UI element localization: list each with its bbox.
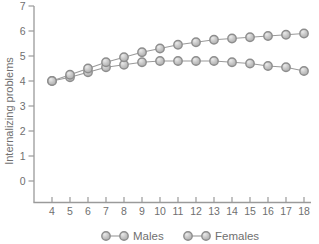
legend-label: Males xyxy=(133,230,164,242)
data-point-marker xyxy=(174,41,182,49)
data-point-marker xyxy=(246,59,254,67)
x-tick-label: 13 xyxy=(208,205,220,217)
x-tick-label: 6 xyxy=(85,205,91,217)
legend-marker xyxy=(120,232,128,240)
x-tick-label: 5 xyxy=(67,205,73,217)
chart-canvas: Internalizing problems 01234567456789101… xyxy=(0,0,319,244)
x-tick-label: 9 xyxy=(139,205,145,217)
legend-marker xyxy=(102,232,110,240)
data-point-marker xyxy=(246,33,254,41)
x-tick-label: 8 xyxy=(121,205,127,217)
data-point-marker xyxy=(84,64,92,72)
x-tick-label: 16 xyxy=(262,205,274,217)
x-tick-label: 14 xyxy=(226,205,238,217)
data-point-marker xyxy=(264,62,272,70)
plot-area: 01234567456789101112131415161718MalesFem… xyxy=(20,0,311,242)
data-point-marker xyxy=(102,58,110,66)
legend-item-males: Males xyxy=(102,230,164,242)
data-point-marker xyxy=(192,38,200,46)
y-tick-label: 7 xyxy=(20,0,26,12)
data-point-marker xyxy=(300,67,308,75)
data-point-marker xyxy=(210,36,218,44)
data-point-marker xyxy=(174,57,182,65)
data-point-marker xyxy=(264,32,272,40)
data-point-marker xyxy=(120,53,128,61)
x-tick-label: 7 xyxy=(103,205,109,217)
y-tick-label: 5 xyxy=(20,50,26,62)
data-point-marker xyxy=(156,44,164,52)
data-point-marker xyxy=(300,29,308,37)
data-point-marker xyxy=(228,34,236,42)
data-point-marker xyxy=(138,48,146,56)
data-point-marker xyxy=(282,31,290,39)
legend-marker xyxy=(202,232,210,240)
data-point-marker xyxy=(156,57,164,65)
y-tick-label: 0 xyxy=(20,175,26,187)
x-tick-label: 4 xyxy=(49,205,55,217)
data-point-marker xyxy=(228,58,236,66)
data-point-marker xyxy=(66,71,74,79)
internalizing-problems-chart: Internalizing problems 01234567456789101… xyxy=(0,0,319,244)
x-tick-label: 15 xyxy=(244,205,256,217)
legend-marker xyxy=(184,232,192,240)
legend-label: Females xyxy=(215,230,259,242)
x-tick-label: 12 xyxy=(190,205,202,217)
data-point-marker xyxy=(48,77,56,85)
y-tick-label: 6 xyxy=(20,25,26,37)
y-axis-title: Internalizing problems xyxy=(3,57,15,165)
legend-item-females: Females xyxy=(184,230,260,242)
y-tick-label: 1 xyxy=(20,150,26,162)
x-tick-label: 10 xyxy=(154,205,166,217)
data-point-marker xyxy=(282,63,290,71)
x-tick-label: 17 xyxy=(280,205,292,217)
y-tick-label: 3 xyxy=(20,100,26,112)
data-point-marker xyxy=(210,57,218,65)
data-point-marker xyxy=(138,58,146,66)
y-tick-label: 4 xyxy=(20,75,26,87)
y-tick-label: 2 xyxy=(20,125,26,137)
x-tick-label: 18 xyxy=(298,205,310,217)
x-tick-label: 11 xyxy=(173,205,184,217)
data-point-marker xyxy=(192,57,200,65)
